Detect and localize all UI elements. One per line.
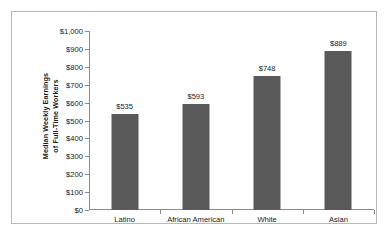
- y-axis-tick-mark: [85, 67, 89, 68]
- bar-value-label: $889: [330, 39, 347, 48]
- bar-value-label: $535: [116, 102, 133, 111]
- bar-group[interactable]: $889: [303, 31, 374, 210]
- x-axis-tick-label: Asian: [329, 215, 348, 224]
- bar-group[interactable]: $535: [89, 31, 160, 210]
- x-axis-tick-label: African American: [167, 215, 224, 224]
- y-axis-tick-label: $300: [66, 152, 83, 161]
- y-axis-tick-mark: [85, 138, 89, 139]
- bar[interactable]: [111, 114, 138, 210]
- y-axis-tick-label: $500: [66, 116, 83, 125]
- y-axis-tick-label: $600: [66, 98, 83, 107]
- y-axis-tick-mark: [85, 121, 89, 122]
- y-axis-tick-mark: [85, 174, 89, 175]
- y-axis-tick-label: $400: [66, 134, 83, 143]
- y-axis-tick-label: $700: [66, 80, 83, 89]
- bar[interactable]: [182, 104, 209, 210]
- y-axis-tick-label: $1,000: [60, 27, 83, 36]
- y-axis-tick-mark: [85, 192, 89, 193]
- bar[interactable]: [254, 76, 281, 210]
- y-axis-tick-label: $100: [66, 188, 83, 197]
- y-axis-tick-labels: $0$100$200$300$400$500$600$700$800$900$1…: [42, 31, 87, 210]
- y-axis-tick-mark: [85, 103, 89, 104]
- y-axis-tick-label: $0: [75, 206, 83, 215]
- y-axis-tick-label: $200: [66, 170, 83, 179]
- y-axis-tick-mark: [85, 156, 89, 157]
- y-axis-tick-mark: [85, 85, 89, 86]
- y-axis-tick-label: $900: [66, 44, 83, 53]
- bars-layer: $535$593$748$889: [89, 31, 374, 210]
- x-axis-tick-mark: [374, 210, 375, 214]
- bar-value-label: $593: [187, 92, 204, 101]
- x-axis-tick-labels: LatinoAfrican AmericanWhiteAsian: [89, 213, 374, 231]
- x-axis-tick-label: Latino: [114, 215, 135, 224]
- bar-group[interactable]: $593: [160, 31, 231, 210]
- bar[interactable]: [325, 51, 352, 210]
- bar-value-label: $748: [259, 64, 276, 73]
- x-axis-tick-label: White: [257, 215, 276, 224]
- y-axis-tick-mark: [85, 31, 89, 32]
- y-axis-tick-label: $800: [66, 62, 83, 71]
- plot-area: $535$593$748$889: [89, 31, 374, 210]
- y-axis-tick-mark: [85, 210, 89, 211]
- y-axis-tick-mark: [85, 49, 89, 50]
- bar-group[interactable]: $748: [232, 31, 303, 210]
- chart-figure: Median Weekly Earnings of Full-Time Work…: [0, 0, 389, 237]
- chart-outer-frame: Median Weekly Earnings of Full-Time Work…: [11, 11, 377, 224]
